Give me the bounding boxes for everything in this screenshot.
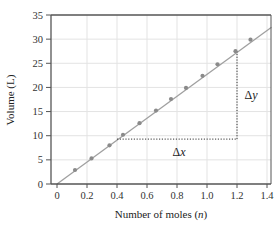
x-tick-label: 1.0 xyxy=(200,190,213,201)
y-tick-label: 5 xyxy=(38,154,43,165)
x-tick-label: 0.2 xyxy=(80,190,93,201)
x-axis-label: Number of moles (n) xyxy=(115,208,208,221)
x-tick-label: 0.4 xyxy=(110,190,124,201)
y-tick-label: 0 xyxy=(38,179,43,190)
y-axis-ticks: 05101520253035 xyxy=(33,10,52,190)
y-tick-label: 20 xyxy=(33,82,44,93)
best-fit-line xyxy=(57,27,272,184)
x-axis-ticks: 00.20.40.60.81.01.21.4 xyxy=(54,184,274,201)
data-point xyxy=(215,62,219,66)
y-tick-label: 35 xyxy=(33,10,44,21)
y-tick-label: 10 xyxy=(33,130,44,141)
delta-x-label: Δx xyxy=(172,145,186,159)
x-tick-label: 1.4 xyxy=(260,190,274,201)
data-point xyxy=(154,109,158,113)
delta-y-label: Δy xyxy=(244,88,258,102)
data-point xyxy=(169,97,173,101)
y-axis-label: Volume (L) xyxy=(4,74,17,125)
y-tick-label: 25 xyxy=(33,58,44,69)
data-point xyxy=(89,156,93,160)
fit-line xyxy=(57,27,272,184)
data-point xyxy=(107,143,111,147)
x-tick-label: 0.8 xyxy=(170,190,183,201)
y-tick-label: 30 xyxy=(33,34,44,45)
grid xyxy=(51,15,271,184)
axes xyxy=(51,15,271,184)
y-tick-label: 15 xyxy=(33,106,44,117)
data-point xyxy=(73,168,77,172)
data-point xyxy=(200,74,204,78)
data-point xyxy=(248,38,252,42)
data-point xyxy=(184,86,188,90)
x-tick-label: 0.6 xyxy=(140,190,153,201)
x-tick-label: 1.2 xyxy=(230,190,243,201)
chart: ΔxΔy 00.20.40.60.81.01.21.4 051015202530… xyxy=(0,0,277,225)
x-tick-label: 0 xyxy=(54,190,59,201)
data-point xyxy=(137,121,141,125)
data-point xyxy=(233,49,237,53)
data-point xyxy=(121,133,125,137)
